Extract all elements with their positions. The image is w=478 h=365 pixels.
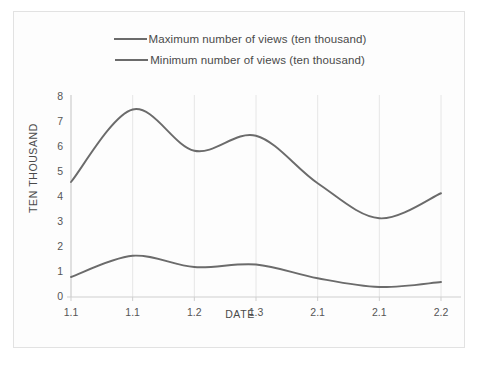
plot-area: TEN THOUSAND DATE 012345678 1.11.11.21.3… bbox=[14, 12, 466, 349]
x-tick-label: 1.2 bbox=[174, 306, 214, 318]
chart-canvas bbox=[14, 12, 466, 349]
gridlines bbox=[71, 95, 441, 297]
x-tick-label: 1.1 bbox=[51, 306, 91, 318]
y-tick-label: 7 bbox=[43, 115, 63, 127]
y-tick-label: 6 bbox=[43, 140, 63, 152]
y-tick-label: 1 bbox=[43, 265, 63, 277]
y-tick-label: 5 bbox=[43, 165, 63, 177]
x-tick-label: 2.1 bbox=[359, 306, 399, 318]
x-tick-label: 2.1 bbox=[298, 306, 338, 318]
y-axis-title: TEN THOUSAND bbox=[27, 108, 39, 228]
y-tick-label: 4 bbox=[43, 190, 63, 202]
y-tick-label: 0 bbox=[43, 290, 63, 302]
y-tick-label: 2 bbox=[43, 240, 63, 252]
y-tick-label: 3 bbox=[43, 215, 63, 227]
tick-marks bbox=[71, 297, 441, 301]
axis-lines bbox=[67, 95, 461, 297]
x-tick-label: 1.3 bbox=[236, 306, 276, 318]
y-tick-label: 8 bbox=[43, 90, 63, 102]
x-tick-label: 1.1 bbox=[113, 306, 153, 318]
x-tick-label: 2.2 bbox=[421, 306, 461, 318]
chart-frame: Maximum number of views (ten thousand) M… bbox=[13, 11, 465, 348]
